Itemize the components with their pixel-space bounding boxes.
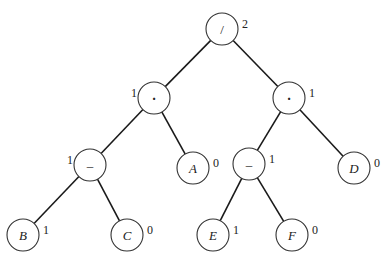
node-label: · [152, 92, 157, 107]
node-number: 0 [147, 223, 153, 237]
edge-mulL-subL [101, 110, 143, 154]
node-number: 1 [233, 223, 239, 237]
node-number: 0 [374, 156, 380, 170]
node-number: 0 [213, 156, 219, 170]
node-label: – [245, 157, 253, 172]
tree-node-mulR: ·1 [273, 82, 315, 114]
expression-tree-diagram: /2·1·1–1A0–1D0B1C0E1F0 [0, 0, 386, 263]
edge-subL-C [97, 179, 119, 221]
node-number: 2 [242, 17, 248, 31]
tree-node-B: B1 [7, 219, 49, 251]
edge-subR-F [257, 178, 283, 222]
node-label: F [287, 228, 297, 243]
node-number: 1 [67, 153, 73, 167]
node-label: C [123, 228, 132, 243]
edge-root-mulR [233, 40, 278, 86]
tree-node-D: D0 [338, 152, 380, 184]
node-label: – [86, 158, 94, 173]
node-label: D [348, 161, 359, 176]
node-number: 1 [131, 86, 137, 100]
node-number: 0 [312, 223, 318, 237]
tree-node-F: F0 [276, 219, 318, 251]
node-number: 1 [43, 223, 49, 237]
edge-mulR-D [300, 110, 343, 157]
node-label: / [220, 22, 224, 37]
node-label: B [19, 228, 27, 243]
edge-mulL-A [162, 112, 185, 154]
node-label: · [287, 92, 292, 107]
tree-node-subR: –1 [233, 148, 275, 180]
node-number: 1 [269, 152, 275, 166]
tree-node-E: E1 [197, 219, 239, 251]
tree-node-mulL: ·1 [131, 82, 170, 114]
edge-mulR-subR [257, 112, 280, 151]
edge-root-mulL [165, 40, 211, 86]
tree-edges [34, 40, 343, 223]
node-label: E [208, 228, 217, 243]
tree-node-A: A0 [177, 152, 219, 184]
tree-node-root: /2 [206, 13, 248, 45]
node-label: A [188, 161, 197, 176]
node-number: 1 [309, 86, 315, 100]
tree-node-C: C0 [111, 219, 153, 251]
tree-node-subL: –1 [67, 149, 106, 181]
edge-subL-B [34, 177, 79, 224]
tree-nodes: /2·1·1–1A0–1D0B1C0E1F0 [7, 13, 380, 251]
edge-subR-E [220, 178, 242, 220]
